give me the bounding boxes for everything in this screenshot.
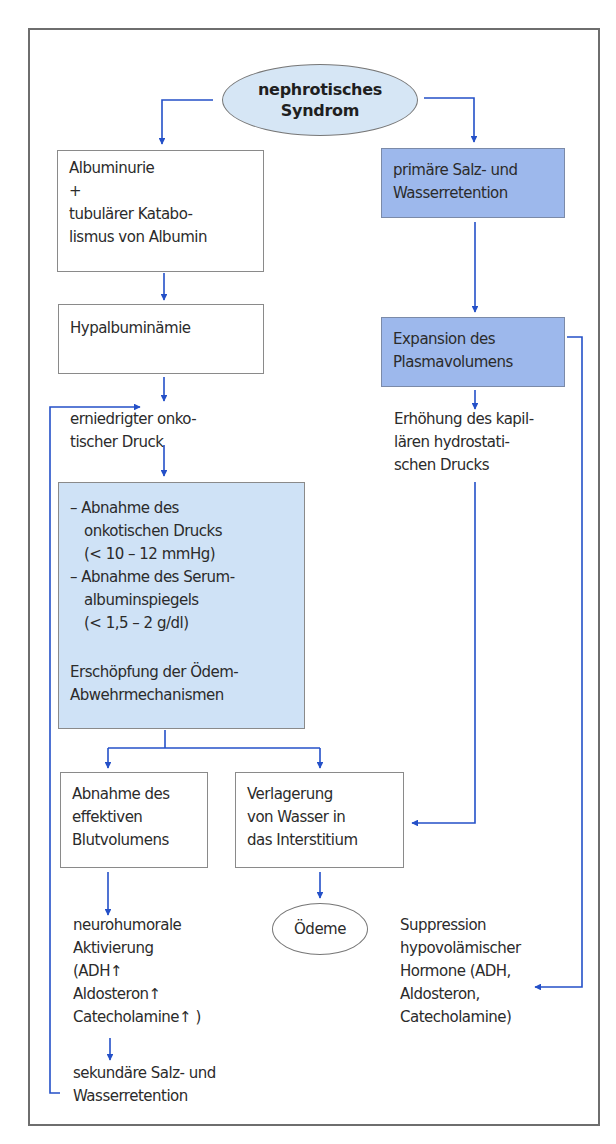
secondary-retention-text: sekundäre Salz- und Wasserretention xyxy=(73,1062,273,1108)
node-line: nephrotisches xyxy=(258,79,382,100)
box-line: Albuminurie xyxy=(69,157,252,180)
box-line: lismus von Albumin xyxy=(69,226,252,249)
box-line: albuminspiegels xyxy=(70,589,293,612)
box-line: Blutvolumens xyxy=(72,829,196,852)
primary-retention-box: primäre Salz- und Wasserretention xyxy=(381,148,565,218)
box-line: (< 1,5 – 2 g/dl) xyxy=(70,612,293,635)
text-line: tischer Druck xyxy=(70,431,260,454)
box-line: onkotischen Drucks xyxy=(70,520,293,543)
neurohumoral-activation-text: neurohumorale Aktivierung (ADH↑ Aldoster… xyxy=(73,914,253,1029)
box-line: Wasserretention xyxy=(393,182,553,205)
text-line: Hormone (ADH, xyxy=(400,960,580,983)
text-line: Aldosteron, xyxy=(400,983,580,1006)
hypalbuminemia-box: Hypalbuminämie xyxy=(58,304,264,374)
box-line: (< 10 – 12 mmHg) xyxy=(70,543,293,566)
text-line: erniedrigter onko- xyxy=(70,408,260,431)
edema-defense-exhaustion-box: – Abnahme des onkotischen Drucks (< 10 –… xyxy=(58,482,305,729)
hydrostatic-pressure-text: Erhöhung des kapil- lären hydrostati- sc… xyxy=(394,408,594,477)
text-line: Catecholamine↑ ) xyxy=(73,1006,253,1029)
text-line: schen Drucks xyxy=(394,454,594,477)
box-line: von Wasser in xyxy=(247,806,392,829)
text-line: Suppression xyxy=(400,914,580,937)
reduced-oncotic-pressure-text: erniedrigter onko- tischer Druck xyxy=(70,408,260,454)
box-line: Plasmavolumens xyxy=(393,351,553,374)
text-line: neurohumorale xyxy=(73,914,253,937)
box-line: das Interstitium xyxy=(247,829,392,852)
plasma-expansion-box: Expansion des Plasmavolumens xyxy=(381,317,565,387)
box-line: Verlagerung xyxy=(247,783,392,806)
effective-blood-volume-box: Abnahme des effektiven Blutvolumens xyxy=(60,772,208,868)
box-line: tubulärer Katabo- xyxy=(69,203,252,226)
albuminuria-box: Albuminurie + tubulärer Katabo- lismus v… xyxy=(57,150,264,272)
box-line: – Abnahme des xyxy=(70,497,293,520)
text-line: Wasserretention xyxy=(73,1085,273,1108)
interstitium-shift-box: Verlagerung von Wasser in das Interstiti… xyxy=(235,772,404,868)
text-line: sekundäre Salz- und xyxy=(73,1062,273,1085)
text-line: Catecholamine) xyxy=(400,1006,580,1029)
box-line: – Abnahme des Serum- xyxy=(70,566,293,589)
box-line: Abwehrmechanismen xyxy=(70,684,293,707)
text-line: Erhöhung des kapil- xyxy=(394,408,594,431)
text-line: Aktivierung xyxy=(73,937,253,960)
box-line: effektiven xyxy=(72,806,196,829)
box-line: Expansion des xyxy=(393,328,553,351)
box-line: primäre Salz- und xyxy=(393,159,553,182)
nephrotic-syndrome-node: nephrotisches Syndrom xyxy=(222,64,418,136)
box-line: Abnahme des xyxy=(72,783,196,806)
box-line: Erschöpfung der Ödem- xyxy=(70,661,293,684)
node-line: Syndrom xyxy=(258,100,382,121)
text-line: lären hydrostati- xyxy=(394,431,594,454)
node-line: Ödeme xyxy=(294,918,346,941)
box-line: Hypalbuminämie xyxy=(70,317,252,340)
hormone-suppression-text: Suppression hypovolämischer Hormone (ADH… xyxy=(400,914,580,1029)
text-line: Aldosteron↑ xyxy=(73,983,253,1006)
box-line: + xyxy=(69,180,252,203)
text-line: hypovolämischer xyxy=(400,937,580,960)
edema-node: Ödeme xyxy=(272,903,368,955)
text-line: (ADH↑ xyxy=(73,960,253,983)
